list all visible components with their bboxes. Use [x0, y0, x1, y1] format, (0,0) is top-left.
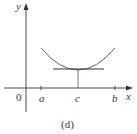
- tick-label-b: b: [112, 92, 118, 104]
- y-axis-label: y: [15, 0, 21, 12]
- figure-caption: (d): [61, 118, 74, 131]
- curve: [41, 48, 115, 70]
- figure-d: y x 0 a c b (d): [0, 0, 137, 134]
- x-axis-label: x: [125, 90, 131, 102]
- tick-label-c: c: [75, 92, 80, 104]
- y-axis-arrow-icon: [24, 3, 29, 10]
- tick-label-a: a: [39, 92, 45, 104]
- origin-label: 0: [16, 91, 22, 103]
